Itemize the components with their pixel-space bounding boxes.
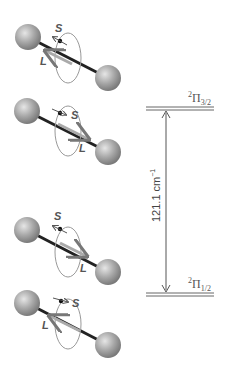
energy-level-diagram: 2Π3/2 2Π1/2 121.1 cm−1 [146,90,214,296]
left-atom [14,98,40,124]
l-label: L [80,262,87,274]
lower-term-label: 2Π1/2 [188,276,211,293]
molecule-3: S L [14,210,121,285]
upper-term-label: 2Π3/2 [188,90,211,107]
right-atom [95,259,121,285]
l-label: L [40,55,47,67]
s-label: S [71,109,79,121]
left-atom [15,24,41,50]
right-atom [95,65,121,91]
l-label: L [42,319,49,331]
splitting-value-label: 121.1 cm−1 [149,169,162,222]
s-label: S [55,22,63,34]
bond [27,230,108,272]
molecule-4: S L [14,290,121,358]
left-atom [14,217,40,243]
right-atom [95,332,121,358]
l-vector-arrow [58,124,88,139]
right-atom [95,139,121,165]
l-vector-arrow [50,316,80,331]
molecule-2: S L [14,98,121,165]
bond [27,111,108,152]
l-label: L [79,142,86,154]
left-atom [14,290,40,316]
s-label: S [54,210,62,222]
s-label: S [72,297,80,309]
molecule-1: S L [15,22,121,91]
spin-orbit-diagram: S L S L 2Π3/2 2Π1/2 121.1 cm−1 [0,0,232,367]
